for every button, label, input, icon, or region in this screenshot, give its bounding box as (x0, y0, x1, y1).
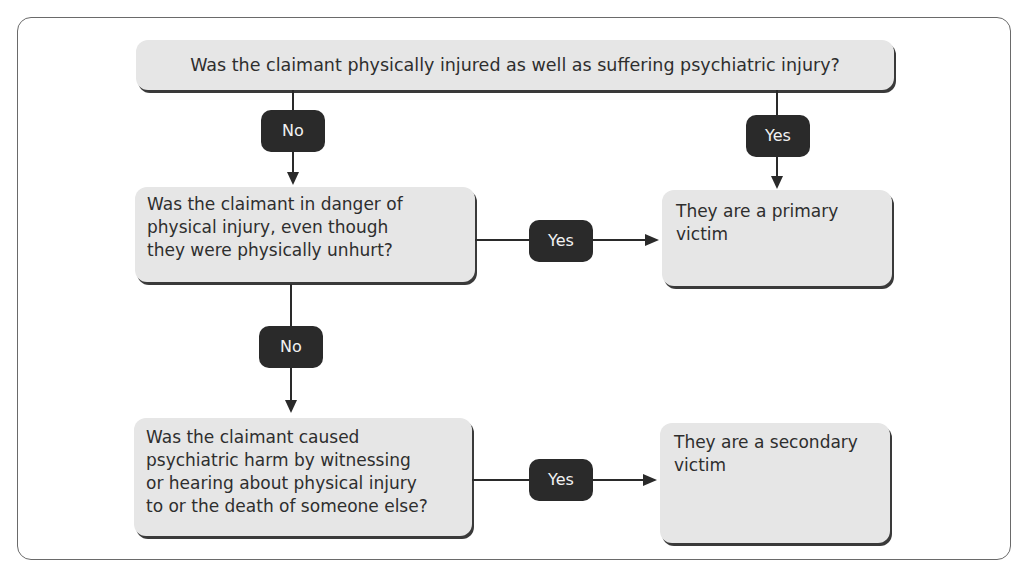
question-in-danger: Was the claimant in danger of physical i… (135, 187, 475, 282)
question-line: they were physically unhurt? (147, 239, 463, 262)
connector-line (475, 239, 531, 241)
arrow-right-icon (645, 234, 659, 246)
result-line: victim (674, 454, 876, 477)
arrow-down-icon (287, 172, 299, 185)
edge-label-text: No (282, 121, 304, 140)
edge-label-text: Yes (765, 126, 791, 145)
result-secondary-victim: They are a secondary victim (660, 423, 890, 543)
connector-line (292, 152, 294, 174)
arrow-down-icon (285, 400, 297, 413)
edge-label-yes: Yes (746, 115, 810, 157)
question-line: or hearing about physical injury (146, 472, 460, 495)
question-witnessing: Was the claimant caused psychiatric harm… (134, 418, 472, 536)
connector-line (593, 479, 645, 481)
edge-label-yes: Yes (529, 459, 593, 501)
connector-line (290, 284, 292, 328)
question-line: to or the death of someone else? (146, 495, 460, 518)
edge-label-yes: Yes (529, 220, 593, 262)
arrow-down-icon (771, 176, 783, 189)
edge-label-text: Yes (548, 231, 574, 250)
question-line: Was the claimant in danger of (147, 193, 463, 216)
edge-label-text: No (280, 337, 302, 356)
question-line: psychiatric harm by witnessing (146, 449, 460, 472)
edge-label-no: No (261, 110, 325, 152)
result-primary-victim: They are a primary victim (662, 190, 892, 286)
connector-line (776, 157, 778, 177)
question-text: Was the claimant physically injured as w… (190, 55, 840, 75)
connector-line (776, 90, 778, 116)
question-line: physical injury, even though (147, 216, 463, 239)
connector-line (290, 368, 292, 402)
edge-label-text: Yes (548, 470, 574, 489)
connector-line (292, 90, 294, 112)
question-physically-injured: Was the claimant physically injured as w… (136, 40, 894, 90)
edge-label-no: No (259, 326, 323, 368)
result-line: victim (676, 223, 878, 246)
result-line: They are a secondary (674, 431, 876, 454)
connector-line (593, 239, 647, 241)
connector-line (472, 479, 530, 481)
arrow-right-icon (643, 474, 657, 486)
result-line: They are a primary (676, 200, 878, 223)
question-line: Was the claimant caused (146, 426, 460, 449)
